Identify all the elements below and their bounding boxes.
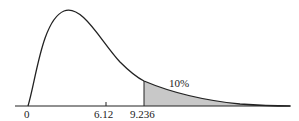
tick-label-mean: 6.12: [94, 108, 113, 120]
tail-percent-label: 10%: [169, 77, 189, 89]
shaded-tail-region: [144, 81, 290, 106]
tick-label-zero: 0: [24, 108, 30, 120]
density-plot: 0 6.12 9.236 10%: [0, 0, 299, 121]
tick-label-critical: 9.236: [130, 108, 155, 120]
